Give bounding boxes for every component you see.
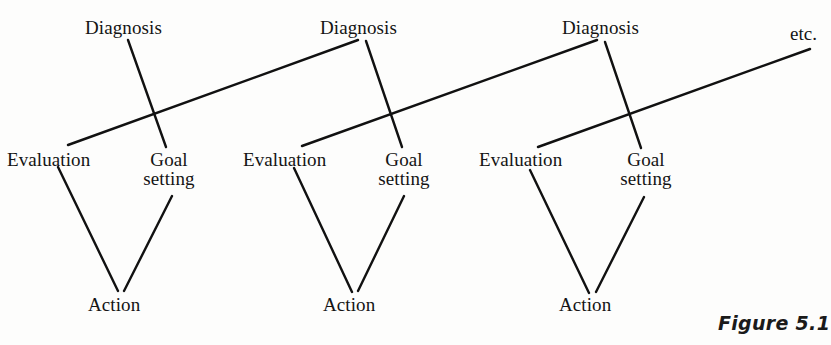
figure-caption: Figure 5.1 [718,314,830,333]
edge-goal2-to-action2 [358,196,404,291]
node-goal-setting-3-line2: setting [617,169,675,188]
etc-label: etc. [790,24,817,43]
node-evaluation-1: Evaluation [7,150,90,169]
edge-evaluation3-to-action3 [530,170,589,293]
node-action-3: Action [559,295,611,314]
node-diagnosis-1: Diagnosis [85,18,162,37]
edge-evaluation3-to-etc [538,49,810,147]
node-goal-setting-1: Goal setting [140,150,198,188]
edge-evaluation2-to-action2 [294,168,352,292]
edge-evaluation1-to-diagnosis2 [68,40,358,145]
node-goal-setting-3: Goal setting [617,150,675,188]
node-evaluation-3: Evaluation [479,150,562,169]
node-goal-setting-1-line2: setting [140,169,198,188]
edge-goal1-to-action1 [124,196,172,291]
node-goal-setting-1-line1: Goal [150,149,187,170]
edge-evaluation1-to-action1 [58,167,118,291]
figure-container: Diagnosis Evaluation Goal setting Action… [0,0,831,345]
node-goal-setting-2-line1: Goal [385,149,422,170]
edge-evaluation2-to-diagnosis3 [302,40,597,146]
edge-diagnosis2-to-goal2 [366,41,402,147]
edge-goal3-to-action3 [596,197,644,292]
node-goal-setting-3-line1: Goal [627,149,664,170]
node-action-1: Action [88,295,140,314]
node-diagnosis-3: Diagnosis [562,18,639,37]
edge-diagnosis1-to-goal1 [128,40,166,147]
edge-diagnosis3-to-goal3 [605,42,641,148]
node-action-2: Action [323,295,375,314]
node-evaluation-2: Evaluation [243,150,326,169]
node-goal-setting-2: Goal setting [375,150,433,188]
node-goal-setting-2-line2: setting [375,169,433,188]
node-diagnosis-2: Diagnosis [320,18,397,37]
